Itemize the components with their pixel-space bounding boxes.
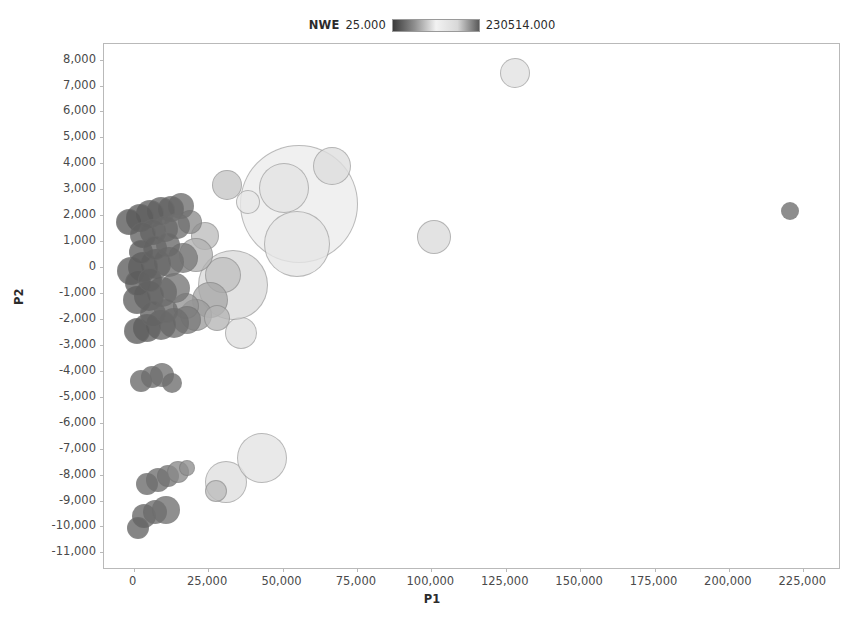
y-axis-tick-mark <box>100 319 104 320</box>
y-axis-tick-mark <box>100 241 104 242</box>
y-axis-tick-label: -10,000 <box>52 518 96 532</box>
x-axis-tick-label: 200,000 <box>704 574 752 588</box>
colorbar-legend: NWE 25.000 230514.000 <box>0 14 864 36</box>
y-axis-tick-label: -4,000 <box>59 363 96 377</box>
y-axis-tick-label: 0 <box>89 259 96 273</box>
y-axis-tick-mark <box>100 345 104 346</box>
data-bubble[interactable] <box>225 317 257 349</box>
x-axis-tick-label: 150,000 <box>555 574 603 588</box>
x-axis-tick-label: 125,000 <box>481 574 529 588</box>
y-axis-tick-label: -5,000 <box>59 389 96 403</box>
y-axis-tick-mark <box>100 267 104 268</box>
data-bubble[interactable] <box>162 373 182 393</box>
y-axis-tick-mark <box>100 163 104 164</box>
y-axis-tick-mark <box>100 215 104 216</box>
data-bubble[interactable] <box>154 299 178 323</box>
data-bubble[interactable] <box>204 305 230 331</box>
y-axis-tick-label: -9,000 <box>59 493 96 507</box>
x-axis-tick-label: 50,000 <box>261 574 301 588</box>
x-axis-tick-label: 175,000 <box>630 574 678 588</box>
data-bubble[interactable] <box>127 517 149 539</box>
data-bubble[interactable] <box>138 268 162 292</box>
y-axis-tick-mark <box>100 526 104 527</box>
y-axis-tick-label: -8,000 <box>59 467 96 481</box>
y-axis-tick-mark <box>100 397 104 398</box>
legend-gradient-bar <box>392 19 480 32</box>
data-bubble[interactable] <box>500 58 530 88</box>
y-axis-tick-mark <box>100 449 104 450</box>
data-bubble[interactable] <box>212 170 242 200</box>
y-axis-tick-label: 6,000 <box>63 103 96 117</box>
x-axis-tick-label: 25,000 <box>187 574 227 588</box>
plot-canvas <box>104 44 839 568</box>
y-axis-tick-label: -2,000 <box>59 311 96 325</box>
y-axis-tick-label: -11,000 <box>52 544 96 558</box>
y-axis-tick-label: -3,000 <box>59 337 96 351</box>
y-axis-tick-mark <box>100 371 104 372</box>
data-bubble[interactable] <box>156 233 180 257</box>
x-axis-tick-mark <box>506 568 507 572</box>
x-axis-tick-mark <box>431 568 432 572</box>
x-axis-tick-label: 75,000 <box>336 574 376 588</box>
legend-min-label: 25.000 <box>346 18 386 32</box>
y-axis-tick-label: 2,000 <box>63 207 96 221</box>
y-axis-tick-mark <box>100 189 104 190</box>
plot-frame <box>103 43 840 569</box>
x-axis-tick-mark <box>655 568 656 572</box>
y-axis-tick-label: -6,000 <box>59 415 96 429</box>
data-bubble[interactable] <box>417 220 451 254</box>
data-bubble[interactable] <box>259 163 309 213</box>
y-axis-tick-mark <box>100 552 104 553</box>
data-bubble[interactable] <box>236 190 260 214</box>
y-axis-tick-mark <box>100 293 104 294</box>
y-axis-tick-mark <box>100 60 104 61</box>
x-axis-tick-mark <box>803 568 804 572</box>
y-axis-tick-label: 3,000 <box>63 181 96 195</box>
y-axis-tick-label: 5,000 <box>63 129 96 143</box>
legend-max-label: 230514.000 <box>486 18 556 32</box>
y-axis-tick-mark <box>100 423 104 424</box>
x-axis-tick-mark <box>134 568 135 572</box>
x-axis-tick-mark <box>729 568 730 572</box>
y-axis-tick-label: 1,000 <box>63 233 96 247</box>
x-axis-tick-mark <box>580 568 581 572</box>
y-axis-tick-label: 7,000 <box>63 78 96 92</box>
data-bubble[interactable] <box>237 433 287 483</box>
data-bubble[interactable] <box>179 460 195 476</box>
y-axis-title: P2 <box>12 289 26 305</box>
y-axis-tick-mark <box>100 86 104 87</box>
x-axis-tick-mark <box>357 568 358 572</box>
figure-caption <box>6 614 686 630</box>
y-axis-tick-label: -7,000 <box>59 441 96 455</box>
legend-title: NWE <box>309 18 340 32</box>
y-axis-tick-label: -1,000 <box>59 285 96 299</box>
data-bubble[interactable] <box>781 202 799 220</box>
data-bubble[interactable] <box>205 480 227 502</box>
data-bubble[interactable] <box>152 496 180 524</box>
y-axis-tick-mark <box>100 501 104 502</box>
x-axis-tick-label: 100,000 <box>407 574 455 588</box>
x-axis-title: P1 <box>0 592 864 606</box>
y-axis-tick-mark <box>100 137 104 138</box>
y-axis-tick-mark <box>100 475 104 476</box>
y-axis-tick-label: 8,000 <box>63 52 96 66</box>
x-axis-tick-label: 225,000 <box>779 574 827 588</box>
x-axis-tick-mark <box>283 568 284 572</box>
x-axis-tick-label: 0 <box>129 574 136 588</box>
data-bubble[interactable] <box>313 147 351 185</box>
data-bubble[interactable] <box>264 211 330 277</box>
x-axis-tick-mark <box>208 568 209 572</box>
y-axis-tick-label: 4,000 <box>63 155 96 169</box>
y-axis-tick-mark <box>100 111 104 112</box>
